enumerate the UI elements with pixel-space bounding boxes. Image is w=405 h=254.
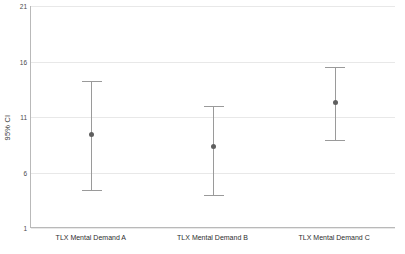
mean-point [211,144,216,149]
error-bar-cap-upper [82,81,102,82]
error-bar-cap-lower [82,190,102,191]
y-tick-label: 21 [20,3,27,10]
error-bar-cap-lower [325,140,345,141]
x-tick-label: TLX Mental Demand A [56,234,126,241]
gridline [31,228,395,229]
error-bar-cap-upper [204,106,224,107]
y-axis-title: 95% CI [0,0,16,254]
error-bar-line [213,106,214,195]
y-tick-label: 11 [20,114,27,121]
mean-point [89,132,94,137]
gridline [31,6,395,7]
error-bar-cap-upper [325,67,345,68]
plot-area: 21161161 [30,6,395,228]
error-bar-chart: 95% CI 21161161 TLX Mental Demand ATLX M… [0,0,405,254]
x-tick-label: TLX Mental Demand B [177,234,248,241]
error-bar-cap-lower [204,195,224,196]
y-tick-label: 1 [23,225,27,232]
y-tick-label: 6 [23,169,27,176]
mean-point [333,100,338,105]
y-tick-label: 16 [20,58,27,65]
gridline [31,62,395,63]
x-tick-label: TLX Mental Demand C [299,234,370,241]
y-axis-title-text: 95% CI [4,114,13,140]
